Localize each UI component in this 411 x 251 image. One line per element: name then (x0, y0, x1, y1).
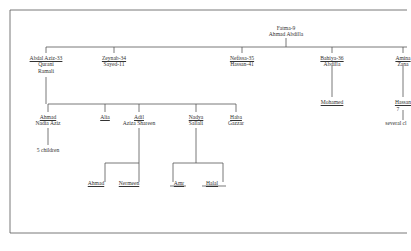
child-node: Zeynab-34 Sayed-11 (102, 55, 126, 68)
grandchild-node: Nadya Sallali (189, 114, 204, 127)
grandchild-node: Hassan (395, 99, 411, 105)
node-line3: Ramali (30, 68, 63, 74)
great-grandchild-node: Halal (206, 180, 218, 186)
child-node: Bahiya-36 Abdilla (320, 55, 343, 68)
node-line2: Sallali (189, 120, 204, 126)
root-node: Fatma-9 Ahmad Abdilla (269, 25, 303, 38)
grandchild-node: Haba Gazzar (228, 114, 244, 127)
frame-border (10, 10, 407, 233)
node-line2: Gazzar (228, 120, 244, 126)
grandchild-node: Mohamed (321, 99, 344, 105)
child-node: Abdal Aziz-33 Qurani Ramali (30, 55, 63, 74)
great-grandchild-node: Ahmad (88, 180, 104, 186)
node-name: Hassan (395, 99, 411, 105)
grandchild-node: Adil Aziza Shareen (123, 114, 155, 127)
great-grandchild-node: Amr (174, 180, 184, 186)
grandchild-node: Ahmad Nadia Aziz (35, 114, 60, 127)
node-line2: Zana (395, 61, 410, 67)
node-line2: Aziza Shareen (123, 120, 155, 126)
child-node: Nefissa-35 Hassan-41 (230, 55, 254, 68)
root-spouse: Ahmad Abdilla (269, 31, 303, 37)
grandchild-node: Alia (100, 114, 110, 120)
great-grandchild-node: Nermeen (119, 180, 140, 186)
node-name: Alia (100, 114, 110, 120)
node-line2: Nadia Aziz (35, 120, 60, 126)
children-count-note: 5 children (37, 147, 60, 153)
node-line2: Sayed-11 (102, 61, 126, 67)
node-line2: Abdilla (320, 61, 343, 67)
grandchild-count: 7 (397, 106, 400, 112)
node-line2: Hassan-41 (230, 61, 254, 67)
child-node: Amina Zana (395, 55, 410, 68)
children-count-note: several cl (385, 120, 406, 126)
